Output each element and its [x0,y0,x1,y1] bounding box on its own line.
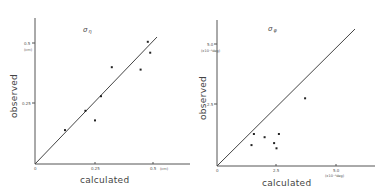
right-title-subscript: φ [273,27,277,34]
left-y-unit: (cm) [24,48,33,52]
data-point [100,95,102,97]
right-title-symbol: σ [268,25,273,33]
left-title-symbol: σ [83,26,88,34]
left-x-tick-label-1: 0.25 [91,166,100,171]
data-point [253,133,255,135]
data-point [251,144,253,146]
left-x-tick-label-2: 0.5 [150,166,157,171]
left-title-subscript: η [88,28,91,35]
right-x-tick-label-2: 5.0 [333,168,340,173]
data-point [264,136,266,138]
data-point [278,133,280,135]
data-point [140,69,142,71]
right-y-axis-label: observed [198,76,208,120]
right-reference-line [217,29,355,166]
data-point [273,142,275,144]
figure: 0.5 (cm) 0.25 0 0.25 0.5 (cm) calculated… [0,0,382,195]
right-chart-title: σφ [268,25,277,34]
data-point [149,52,151,54]
data-point [84,110,86,112]
left-y-axis-label: observed [9,74,19,118]
left-x-unit: (cm) [160,167,169,171]
data-point [304,97,306,99]
right-x-tick-label-1: 2.5 [273,168,280,173]
data-point [64,129,66,131]
left-chart-title: ση [83,26,92,35]
left-reference-line [35,37,157,164]
right-chart: 5.0 (x10⁻³deg) 2.5 0 2.5 5.0 (x10⁻³deg) … [198,20,375,188]
left-chart: 0.5 (cm) 0.25 0 0.25 0.5 (cm) calculated… [9,18,190,185]
left-x-axis-label: calculated [80,175,129,185]
data-point [94,119,96,121]
right-origin-label: 0 [216,168,219,173]
data-point [111,66,113,68]
right-y-unit: (x10⁻³deg) [201,49,221,53]
left-data-points [64,41,151,131]
right-y-tick-label-1: 2.5 [207,102,214,107]
right-x-axis-label: calculated [262,178,311,188]
left-y-tick-label-2: 0.5 [24,41,31,46]
data-point [276,147,278,149]
data-point [147,41,149,43]
right-y-tick-label-2: 5.0 [207,42,214,47]
right-x-unit: (x10⁻³deg) [325,174,345,178]
left-y-tick-label-1: 0.25 [22,101,31,106]
left-origin-label: 0 [34,166,37,171]
